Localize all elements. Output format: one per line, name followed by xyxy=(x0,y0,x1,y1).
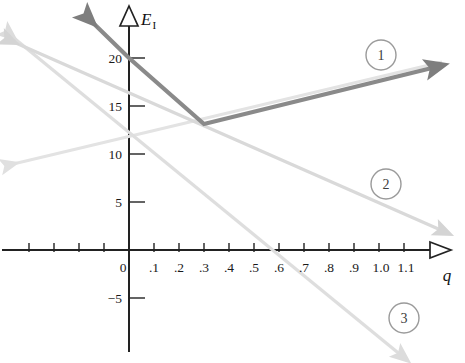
curve-badge-1: 1 xyxy=(366,40,396,70)
chart-figure: 0 .1 .2 .3 .4 .5 .6 .7 .8 .9 1.0 1.1 20 … xyxy=(0,0,465,363)
curve-badge-3: 3 xyxy=(389,303,419,333)
curve-badge-label: 2 xyxy=(383,177,390,192)
x-tick-label: .3 xyxy=(199,260,209,275)
curve-3-line xyxy=(9,34,402,356)
x-tick-label: .6 xyxy=(274,260,284,275)
y-axis-title-subscript: I xyxy=(152,19,156,31)
y-tick-label: 20 xyxy=(109,51,123,66)
x-tick-label: .2 xyxy=(174,260,184,275)
x-tick-label: .5 xyxy=(249,260,259,275)
y-axis-arrow-icon xyxy=(120,6,138,26)
chart-canvas: 0 .1 .2 .3 .4 .5 .6 .7 .8 .9 1.0 1.1 20 … xyxy=(0,0,465,363)
x-tick-label: .7 xyxy=(299,260,309,275)
y-tick-label: 15 xyxy=(109,99,123,114)
x-tick-label: .4 xyxy=(224,260,234,275)
x-tick-label: 1.0 xyxy=(373,260,390,275)
x-tick-label: 0 xyxy=(120,260,127,275)
y-axis-title: EI xyxy=(140,10,156,31)
y-tick-label: 10 xyxy=(109,147,123,162)
x-tick-label: .1 xyxy=(149,260,159,275)
curves-group xyxy=(9,18,443,356)
x-axis-arrow-icon xyxy=(430,242,451,258)
curve-badge-2: 2 xyxy=(371,169,401,199)
y-tick-label: −5 xyxy=(108,291,123,306)
curve-2-line xyxy=(9,40,443,231)
curve-4-line xyxy=(9,62,442,165)
x-tick-label: .8 xyxy=(324,260,334,275)
y-axis-title-base: E xyxy=(140,10,152,29)
curve-1-line xyxy=(88,18,436,124)
curve-badge-label: 3 xyxy=(401,311,408,326)
x-tick-label: 1.1 xyxy=(398,260,415,275)
x-tick-labels: 0 .1 .2 .3 .4 .5 .6 .7 .8 .9 1.0 1.1 xyxy=(120,260,415,275)
x-axis-title: q xyxy=(443,266,452,285)
x-tick-label: .9 xyxy=(349,260,359,275)
y-tick-label: 5 xyxy=(115,195,122,210)
axis-titles: EI q xyxy=(140,10,452,285)
curve-badge-label: 1 xyxy=(378,48,385,63)
